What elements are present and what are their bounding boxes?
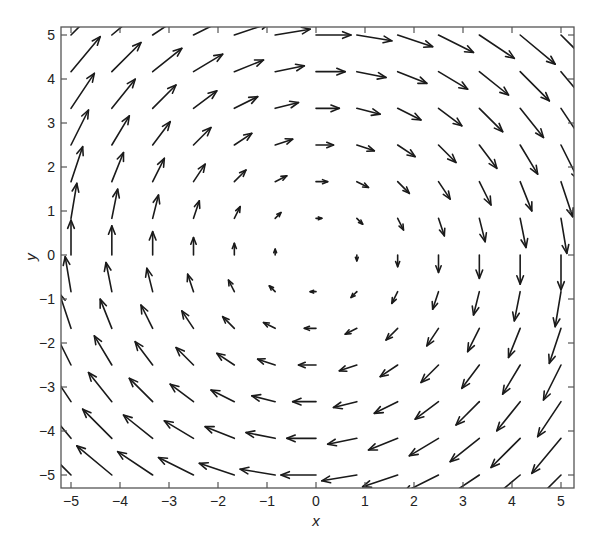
vector-arrow: [415, 402, 438, 420]
vector-arrow: [450, 438, 479, 461]
vector-arrow: [357, 108, 380, 115]
vector-arrow: [275, 27, 310, 35]
vector-arrow: [153, 158, 165, 181]
vector-arrow: [497, 402, 520, 431]
vector-arrow: [398, 145, 416, 157]
vector-arrow: [386, 328, 398, 340]
vector-arrow: [153, 195, 160, 218]
vector-arrow: [71, 147, 83, 182]
vector-arrow: [234, 23, 269, 35]
vector-arrow: [234, 170, 246, 182]
vector-arrow: [63, 257, 71, 292]
vector-arrow: [170, 384, 193, 402]
vector-arrow: [479, 72, 508, 95]
x-tick-label: −2: [210, 493, 226, 509]
vector-arrow: [112, 79, 135, 108]
vector-arrow: [398, 35, 433, 47]
y-tick-label: −3: [39, 379, 55, 395]
vector-arrow: [436, 255, 441, 273]
vector-arrow: [182, 311, 194, 329]
vector-arrow: [328, 438, 357, 445]
vector-arrow: [153, 85, 176, 108]
quiver-plot: −5−4−3−2−1012345 −5−4−3−2−1012345 x y: [0, 0, 603, 553]
vector-arrow: [71, 183, 79, 218]
vector-arrow: [509, 328, 521, 357]
vector-arrow: [217, 353, 235, 365]
vector-arrow: [345, 328, 357, 334]
x-axis-label: x: [311, 512, 320, 529]
vector-arrow: [526, 475, 561, 510]
x-tick-label: 1: [361, 493, 369, 509]
vector-arrow: [398, 182, 410, 194]
x-axis-ticks: −5−4−3−2−1012345: [63, 27, 565, 509]
vector-arrow: [205, 427, 234, 439]
vector-arrow: [439, 35, 474, 53]
vector-arrow: [316, 142, 334, 147]
vector-arrow: [240, 467, 275, 475]
x-tick-label: 0: [312, 493, 320, 509]
vector-arrow: [520, 145, 538, 174]
vector-arrow: [54, 330, 72, 365]
vector-arrow: [520, 72, 549, 101]
vector-arrow: [520, 35, 555, 64]
vector-arrow: [211, 390, 234, 402]
vector-arrow: [293, 398, 316, 405]
vector-arrow: [141, 305, 153, 328]
vector-arrow: [164, 421, 193, 439]
vector-arrow: [392, 292, 398, 304]
y-tick-label: 2: [47, 159, 55, 175]
vector-arrow: [223, 317, 235, 329]
vector-field-arrows: [36, 0, 596, 510]
vector-arrow: [421, 365, 439, 383]
vector-arrow: [538, 402, 561, 437]
vector-arrow: [462, 365, 480, 388]
vector-arrow: [439, 145, 457, 163]
vector-arrow: [357, 182, 369, 188]
vector-arrow: [310, 290, 316, 293]
vector-arrow: [153, 122, 171, 145]
vector-arrow: [316, 68, 345, 75]
vector-arrow: [363, 475, 398, 487]
vector-arrow: [316, 105, 339, 112]
vector-arrow: [159, 458, 194, 476]
vector-arrow: [234, 97, 257, 109]
vector-arrow: [561, 72, 590, 107]
vector-arrow: [520, 108, 543, 137]
x-tick-label: −1: [259, 493, 275, 509]
vector-arrow: [118, 452, 153, 475]
vector-arrow: [357, 218, 363, 224]
vector-arrow: [287, 435, 316, 442]
vector-arrow: [456, 402, 479, 425]
vector-arrow: [432, 292, 438, 310]
vector-arrow: [479, 35, 514, 58]
vector-arrow: [357, 35, 392, 43]
vector-arrow: [334, 402, 357, 409]
x-tick-label: 5: [557, 493, 565, 509]
x-tick-label: −5: [63, 493, 79, 509]
vector-arrow: [234, 207, 240, 219]
vector-arrow: [404, 475, 439, 493]
vector-arrow: [153, 12, 188, 35]
vector-arrow: [274, 249, 277, 255]
vector-arrow: [112, 189, 119, 218]
vector-arrow: [275, 139, 293, 145]
vector-arrow: [479, 145, 497, 168]
vector-arrow: [94, 336, 112, 365]
x-tick-label: 3: [459, 493, 467, 509]
x-tick-label: −3: [161, 493, 177, 509]
vector-arrow: [517, 255, 524, 284]
vector-arrow: [89, 373, 112, 402]
vector-arrow: [561, 218, 569, 253]
vector-arrow: [316, 32, 351, 39]
vector-arrow: [264, 323, 276, 329]
vector-arrow: [194, 54, 223, 71]
vector-arrow: [234, 60, 263, 72]
vector-arrow: [355, 255, 358, 261]
vector-arrow: [427, 328, 439, 346]
vector-arrow: [439, 218, 445, 236]
vector-arrow: [544, 365, 562, 400]
vector-arrow: [129, 378, 152, 401]
vector-arrow: [398, 72, 427, 84]
vector-arrow: [100, 299, 112, 328]
vector-arrow: [281, 472, 316, 479]
